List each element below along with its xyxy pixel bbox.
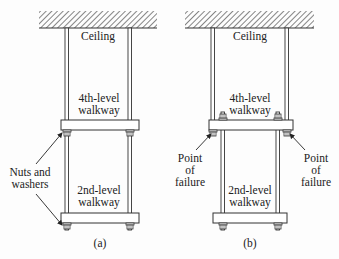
caption-b: (b) xyxy=(238,237,262,249)
ceiling-label-b: Ceiling xyxy=(230,30,270,42)
walkway-4th xyxy=(209,120,293,130)
failure-callout-left: Point of failure xyxy=(170,152,210,188)
nuts-washers-callout: Nuts and washers xyxy=(4,166,56,190)
walkway-4th-label-a: 4th-level walkway xyxy=(70,92,128,116)
ceiling-label-a: Ceiling xyxy=(78,30,118,42)
walkway-diagram xyxy=(0,0,339,259)
walkway-4th-label-b: 4th-level walkway xyxy=(221,92,279,116)
walkway-4th xyxy=(61,120,139,130)
walkway-2nd-label-b: 2nd-level walkway xyxy=(221,184,279,208)
caption-a: (a) xyxy=(88,237,112,249)
walkway-2nd xyxy=(213,213,287,223)
ceiling-hatch xyxy=(185,11,314,28)
walkway-2nd xyxy=(61,213,139,223)
failure-callout-right: Point of failure xyxy=(296,152,336,188)
ceiling-hatch xyxy=(39,11,157,28)
walkway-2nd-label-a: 2nd-level walkway xyxy=(70,184,128,208)
